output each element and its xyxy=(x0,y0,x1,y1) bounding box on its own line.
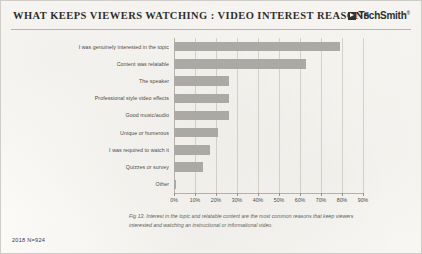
chart-bar-row: Other xyxy=(174,176,363,193)
chart-bar xyxy=(174,42,340,52)
chart-bar-row: Unique or humerous xyxy=(174,124,363,141)
chart-bar xyxy=(174,111,229,121)
x-tick-label: 70% xyxy=(316,197,326,203)
chart-bar xyxy=(174,162,203,172)
chart-bar xyxy=(174,59,306,69)
chart-bar xyxy=(174,128,218,138)
page-title: WHAT KEEPS VIEWERS WATCHING : VIDEO INTE… xyxy=(13,10,370,21)
chart-bar-row: Professional style video effects xyxy=(174,90,363,107)
chart-bar-row: Content was relatable xyxy=(174,55,363,72)
techsmith-logo-icon xyxy=(348,12,356,20)
category-label: Quizzes or survey xyxy=(126,164,169,170)
chart-bar-row: Good music/audio xyxy=(174,107,363,124)
gridline-90% xyxy=(363,38,364,193)
category-label: Other xyxy=(156,181,170,187)
category-label: Content was relatable xyxy=(117,61,169,67)
chart-bar xyxy=(174,94,229,104)
category-label: I was genuinely interested in the topic xyxy=(79,44,169,50)
x-tick-mark xyxy=(174,193,175,196)
x-tick-label: 40% xyxy=(253,197,263,203)
chart-bars: I was genuinely interested in the topicC… xyxy=(174,38,363,193)
x-tick-mark xyxy=(237,193,238,196)
x-tick-label: 80% xyxy=(337,197,347,203)
category-label: Good music/audio xyxy=(126,112,170,118)
x-tick-mark xyxy=(321,193,322,196)
x-tick-mark xyxy=(300,193,301,196)
chart-plot-area: I was genuinely interested in the topicC… xyxy=(174,38,363,193)
x-tick-mark xyxy=(342,193,343,196)
category-label: Unique or humerous xyxy=(120,130,169,136)
x-tick-label: 10% xyxy=(190,197,200,203)
x-tick-label: 20% xyxy=(211,197,221,203)
chart-bar xyxy=(174,76,229,86)
chart-bar-row: Quizzes or survey xyxy=(174,159,363,176)
category-label: I was required to watch it xyxy=(109,147,169,153)
x-axis-ticks: 0%10%20%30%40%50%60%70%80%90% xyxy=(174,193,363,205)
x-tick-mark xyxy=(195,193,196,196)
x-tick-mark xyxy=(363,193,364,196)
chart-bar xyxy=(174,145,210,155)
techsmith-brand-logo: TechSmith® xyxy=(348,10,410,21)
category-label: Professional style video effects xyxy=(95,95,169,101)
x-tick-mark xyxy=(279,193,280,196)
x-tick-label: 60% xyxy=(295,197,305,203)
header-divider xyxy=(11,29,411,30)
x-tick-mark xyxy=(216,193,217,196)
x-tick-label: 0% xyxy=(170,197,178,203)
category-label: The speaker xyxy=(139,78,169,84)
registered-trademark-icon: ® xyxy=(407,10,410,16)
chart-bar xyxy=(174,180,176,190)
x-tick-mark xyxy=(258,193,259,196)
chart-bar-row: The speaker xyxy=(174,72,363,89)
x-tick-label: 50% xyxy=(274,197,284,203)
chart-bar-row: I was required to watch it xyxy=(174,141,363,158)
chart-header: WHAT KEEPS VIEWERS WATCHING : VIDEO INTE… xyxy=(1,1,421,31)
figure-caption: Fig 13. Interest in the topic and relata… xyxy=(129,212,369,230)
x-tick-label: 90% xyxy=(358,197,368,203)
chart-bar-row: I was genuinely interested in the topic xyxy=(174,38,363,55)
footer-sample-size: 2018 N=924 xyxy=(12,237,45,243)
brand-name: TechSmith® xyxy=(358,10,410,21)
x-tick-label: 30% xyxy=(232,197,242,203)
chart-page: WHAT KEEPS VIEWERS WATCHING : VIDEO INTE… xyxy=(0,0,422,254)
